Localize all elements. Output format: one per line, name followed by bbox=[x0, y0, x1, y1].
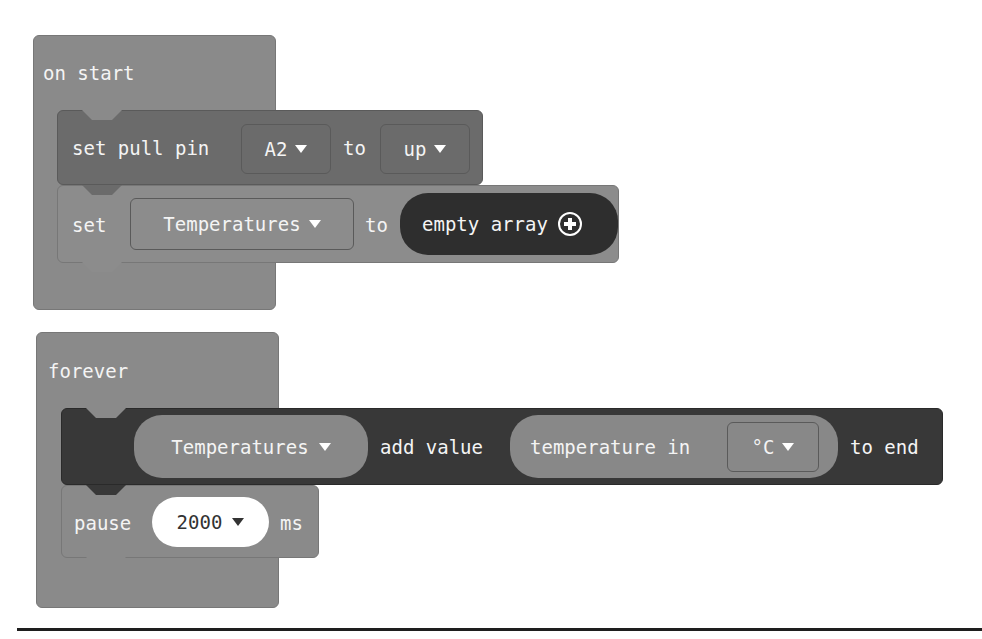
dropdown-arrow-icon bbox=[309, 220, 321, 228]
empty-array-label: empty array bbox=[422, 213, 548, 235]
array-variable-name: Temperatures bbox=[171, 436, 308, 458]
pin-dropdown[interactable]: A2 bbox=[241, 124, 331, 174]
variable-name: Temperatures bbox=[163, 213, 300, 235]
pause-duration-dropdown[interactable]: 2000 bbox=[152, 497, 269, 547]
dropdown-arrow-icon bbox=[782, 443, 794, 451]
pull-mode-dropdown[interactable]: up bbox=[380, 124, 470, 174]
to-end-label: to end bbox=[850, 438, 919, 457]
unit-dropdown[interactable]: °C bbox=[727, 422, 819, 472]
add-value-label: add value bbox=[380, 438, 483, 457]
divider-line bbox=[17, 628, 982, 631]
pin-value: A2 bbox=[265, 138, 288, 160]
dropdown-arrow-icon bbox=[319, 443, 331, 451]
forever-label: forever bbox=[48, 362, 128, 381]
pause-duration-value: 2000 bbox=[177, 511, 223, 533]
empty-array-block[interactable]: empty array bbox=[400, 193, 618, 255]
to-label: to bbox=[343, 139, 366, 158]
temperature-label: temperature in bbox=[530, 436, 690, 458]
pause-label: pause bbox=[74, 514, 131, 533]
on-start-label: on start bbox=[43, 64, 135, 83]
variable-dropdown[interactable]: Temperatures bbox=[130, 198, 354, 250]
array-variable-dropdown[interactable]: Temperatures bbox=[134, 415, 368, 478]
set-label: set bbox=[72, 216, 106, 235]
ms-label: ms bbox=[280, 514, 303, 533]
pull-pin-label: set pull pin bbox=[72, 139, 209, 158]
to-label: to bbox=[365, 216, 388, 235]
pull-mode-value: up bbox=[404, 138, 427, 160]
unit-value: °C bbox=[752, 436, 775, 458]
dropdown-arrow-icon bbox=[295, 145, 307, 153]
dropdown-arrow-icon bbox=[434, 145, 446, 153]
plus-circle-icon[interactable] bbox=[558, 212, 582, 236]
dropdown-arrow-icon bbox=[232, 518, 244, 526]
